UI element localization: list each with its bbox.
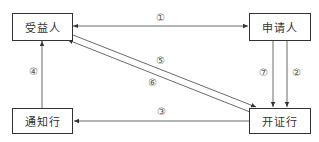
- node-beneficiary: 受益人: [12, 13, 73, 41]
- node-advising-bank: 通知行: [12, 108, 73, 134]
- letter-of-credit-flow-diagram: 受益人 申请人 通知行 开证行 ① ② ③ ④ ⑤ ⑥ ⑦: [0, 0, 319, 142]
- edge-6-label: ⑥: [148, 78, 157, 88]
- node-applicant-label: 申请人: [262, 19, 298, 35]
- edge-3-label: ③: [157, 107, 166, 117]
- node-advising-bank-label: 通知行: [25, 113, 61, 129]
- node-issuing-bank: 开证行: [249, 108, 311, 134]
- edge-2-label: ②: [292, 68, 301, 78]
- edge-7-label: ⑦: [259, 68, 268, 78]
- edge-6-line: [68, 40, 250, 112]
- edge-1-start-arrowhead: [73, 24, 78, 28]
- edge-5-label: ⑤: [156, 56, 165, 66]
- node-beneficiary-label: 受益人: [25, 19, 61, 35]
- edge-4-label: ④: [29, 67, 38, 77]
- edge-1-label: ①: [156, 13, 165, 23]
- edge-5-line: [73, 35, 256, 107]
- node-issuing-bank-label: 开证行: [262, 113, 298, 129]
- node-applicant: 申请人: [249, 13, 311, 41]
